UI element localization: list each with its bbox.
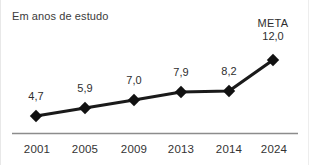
x-axis-tick-2014: 2014 xyxy=(216,143,242,155)
value-label-2009: 7,0 xyxy=(126,74,141,86)
value-label-2001: 4,7 xyxy=(28,90,43,102)
x-axis-tick-2013: 2013 xyxy=(168,143,194,155)
value-label-2013: 7,9 xyxy=(173,66,188,78)
data-point-marker-2005 xyxy=(79,102,91,114)
value-label-2005: 5,9 xyxy=(77,82,92,94)
line-chart-plot xyxy=(1,0,309,165)
x-axis-tick-2005: 2005 xyxy=(72,143,98,155)
data-series-line xyxy=(36,60,273,116)
data-point-marker-2013 xyxy=(175,86,187,98)
x-axis-tick-2009: 2009 xyxy=(121,143,147,155)
x-axis-tick-2001: 2001 xyxy=(24,143,50,155)
value-label-2014: 8,2 xyxy=(221,65,236,77)
x-axis-tick-2024: 2024 xyxy=(261,143,287,155)
data-point-marker-2009 xyxy=(128,94,140,106)
chart-container: Em anos de estudo META 12,0 4,75,97,07,9… xyxy=(0,0,309,165)
data-point-marker-2001 xyxy=(30,110,42,122)
